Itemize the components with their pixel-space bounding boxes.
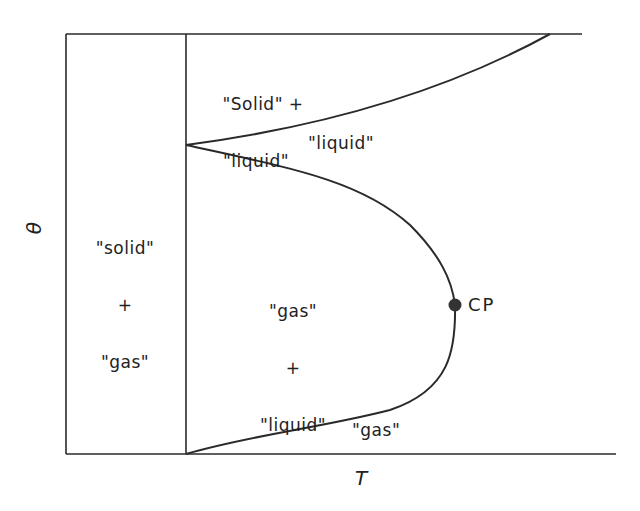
critical-point-label: CP [468, 295, 495, 314]
x-axis-label: T [355, 466, 367, 490]
region-gas: "gas" [352, 421, 400, 440]
y-axis-label: θ [22, 222, 46, 234]
region-liquid: "liquid" [308, 134, 374, 153]
region-gas-liquid: "gas" + "liquid" [248, 264, 338, 454]
region-solid-gas: "solid" + "gas" [82, 201, 168, 391]
critical-point-marker [449, 299, 462, 312]
region-solid-liquid: "Solid" + "liquid" [208, 57, 318, 190]
